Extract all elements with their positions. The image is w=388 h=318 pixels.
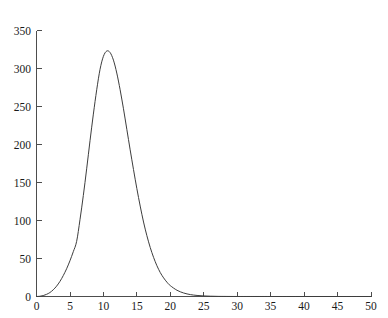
- x-tick-label-6: 30: [231, 300, 243, 312]
- y-tick-label-1: 50: [20, 253, 32, 265]
- x-tick-label-8: 40: [298, 300, 310, 312]
- y-tick-label-0: 0: [25, 291, 31, 303]
- x-tick-label-10: 50: [365, 300, 377, 312]
- x-tick-label-5: 25: [198, 300, 210, 312]
- y-tick-label-6: 300: [14, 63, 32, 75]
- chart-figure: 0 50 100 150 200 250 300 350 0 5 10 15 2…: [0, 0, 388, 318]
- y-tick-label-7: 350: [14, 25, 32, 37]
- x-tick-label-0: 0: [34, 300, 40, 312]
- x-tick-label-2: 10: [98, 300, 110, 312]
- line-chart-plot: 0 50 100 150 200 250 300 350 0 5 10 15 2…: [0, 0, 388, 318]
- x-tick-label-1: 5: [67, 300, 73, 312]
- y-tick-label-4: 200: [14, 139, 32, 151]
- y-tick-label-3: 150: [14, 177, 32, 189]
- x-tick-label-3: 15: [131, 300, 143, 312]
- chart-background: [0, 0, 388, 318]
- x-tick-label-4: 20: [165, 300, 177, 312]
- y-tick-label-5: 250: [14, 101, 32, 113]
- x-tick-label-9: 45: [332, 300, 344, 312]
- x-tick-label-7: 35: [265, 300, 277, 312]
- y-tick-label-2: 100: [14, 215, 32, 227]
